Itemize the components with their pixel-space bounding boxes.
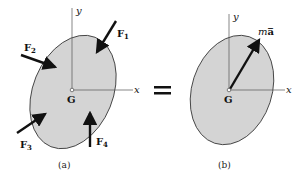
free-body-diagram: y x G F1 F2 F3 F4 (a) y x G ma̅ (b) <box>0 0 305 175</box>
rigid-body-a <box>14 22 132 161</box>
panel-b: y x G ma̅ (b) <box>177 11 292 170</box>
center-of-mass-a <box>70 88 74 92</box>
f2-label: F2 <box>24 42 36 55</box>
equals-sign <box>154 86 171 95</box>
center-of-mass-b <box>227 88 231 92</box>
ma-label: ma̅ <box>258 26 274 37</box>
panel-a: y x G F1 F2 F3 F4 (a) <box>14 5 140 170</box>
g-label-a: G <box>67 94 76 105</box>
g-label-b: G <box>224 94 233 105</box>
x-axis-label-b: x <box>286 84 292 95</box>
f1-label: F1 <box>117 28 129 41</box>
x-axis-label-a: x <box>134 84 140 95</box>
f3-label: F3 <box>20 139 32 152</box>
f4-label: F4 <box>96 136 108 149</box>
y-axis-label-a: y <box>75 5 82 16</box>
caption-a: (a) <box>58 160 70 170</box>
y-axis-label-b: y <box>232 11 239 22</box>
caption-b: (b) <box>218 160 231 170</box>
